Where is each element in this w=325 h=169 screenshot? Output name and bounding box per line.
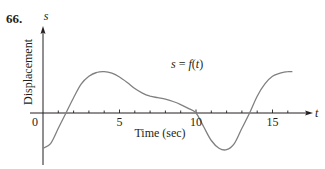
axes bbox=[30, 26, 313, 165]
x-tick-label: 0 bbox=[32, 115, 38, 129]
y-axis-label: Displacement bbox=[21, 38, 35, 105]
displacement-chart: Displacement Time (sec) s = f(t) s t 051… bbox=[0, 0, 325, 169]
x-tick-label: 10 bbox=[190, 115, 202, 129]
y-axis-variable: s bbox=[44, 9, 49, 23]
x-axis-variable: t bbox=[315, 106, 319, 120]
x-axis-label: Time (sec) bbox=[134, 126, 185, 140]
x-ticks bbox=[58, 110, 287, 114]
x-tick-label: 15 bbox=[267, 115, 279, 129]
curve-annotation: s = f(t) bbox=[171, 57, 203, 71]
x-tick-label: 5 bbox=[117, 115, 123, 129]
